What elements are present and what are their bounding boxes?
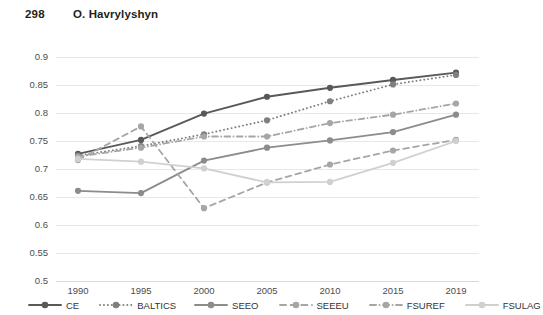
legend-item-seeo[interactable]: SEEO [194, 299, 260, 311]
legend-item-baltics[interactable]: BALTICS [99, 299, 178, 311]
data-point [327, 85, 333, 91]
data-point [453, 138, 459, 144]
x-tick-label: 2000 [181, 285, 227, 296]
data-point [201, 133, 207, 139]
data-point [453, 72, 459, 78]
data-point [453, 112, 459, 118]
legend-label: BALTICS [137, 300, 176, 311]
data-point [138, 137, 144, 143]
legend-item-ce[interactable]: CE [28, 299, 81, 311]
legend-swatch-seeeu [279, 299, 313, 311]
legend-label: FSULAG [503, 300, 541, 311]
data-point [390, 81, 396, 87]
data-point [327, 161, 333, 167]
y-tick-label: 0.9 [8, 51, 48, 62]
data-point [201, 205, 207, 211]
data-point [327, 98, 333, 104]
legend-swatch-fsuref [369, 299, 403, 311]
legend-swatch-baltics [99, 299, 133, 311]
page-number: 298 [25, 8, 45, 20]
legend-item-fsulag[interactable]: FSULAG [465, 299, 543, 311]
data-point [264, 117, 270, 123]
data-point [138, 159, 144, 165]
plot-area: 0.90.850.80.750.70.650.60.550.5 19901995… [56, 57, 479, 281]
legend-swatch-seeo [194, 299, 228, 311]
x-tick-label: 1990 [55, 285, 101, 296]
data-point [75, 156, 81, 162]
data-point [390, 129, 396, 135]
line-chart: 0.90.850.80.750.70.650.60.550.5 19901995… [0, 40, 483, 292]
x-tick-label: 2005 [244, 285, 290, 296]
data-point [327, 179, 333, 185]
legend-label: CE [66, 300, 79, 311]
data-point [201, 165, 207, 171]
page-header: 298 O. Havrylyshyn [0, 8, 483, 30]
y-tick-label: 0.6 [8, 219, 48, 230]
x-tick-label: 1995 [118, 285, 164, 296]
data-point [138, 145, 144, 151]
legend-label: FSUREF [407, 300, 445, 311]
data-point [201, 158, 207, 164]
series-lines [56, 57, 479, 281]
data-point [264, 94, 270, 100]
data-point [264, 179, 270, 185]
data-point [390, 160, 396, 166]
x-tick-label: 2015 [370, 285, 416, 296]
gridline [56, 281, 479, 282]
x-tick-label: 2010 [307, 285, 353, 296]
y-tick-label: 0.75 [8, 135, 48, 146]
data-point [138, 123, 144, 129]
legend-swatch-fsulag [465, 299, 499, 311]
running-head-author: O. Havrylyshyn [73, 8, 158, 20]
data-point [138, 190, 144, 196]
legend-item-seeeu[interactable]: SEEEU [279, 299, 351, 311]
chart-legend: CEBALTICSSEEOSEEEUFSUREFFSULAG [0, 296, 483, 314]
legend-label: SEEO [232, 300, 258, 311]
data-point [390, 112, 396, 118]
y-tick-label: 0.8 [8, 107, 48, 118]
data-point [264, 133, 270, 139]
data-point [75, 188, 81, 194]
y-tick-label: 0.7 [8, 163, 48, 174]
data-point [453, 100, 459, 106]
data-point [264, 145, 270, 151]
legend-swatch-ce [28, 299, 62, 311]
y-tick-label: 0.65 [8, 191, 48, 202]
x-tick-label: 2019 [433, 285, 479, 296]
y-tick-label: 0.5 [8, 275, 48, 286]
data-point [201, 110, 207, 116]
y-tick-label: 0.85 [8, 79, 48, 90]
data-point [390, 147, 396, 153]
legend-item-fsuref[interactable]: FSUREF [369, 299, 447, 311]
y-tick-label: 0.55 [8, 247, 48, 258]
data-point [327, 137, 333, 143]
data-point [327, 120, 333, 126]
series-line [78, 75, 456, 156]
legend-label: SEEEU [317, 300, 349, 311]
